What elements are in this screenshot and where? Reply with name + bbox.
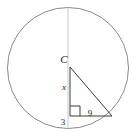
- label-below-corner-3: 3: [61, 117, 66, 127]
- label-center-c: C: [60, 53, 68, 65]
- right-angle-marker-icon: [70, 106, 80, 116]
- label-vertical-leg-x: x: [61, 82, 66, 92]
- label-horizontal-leg-9: 9: [88, 108, 93, 118]
- diagram-canvas: C x 9 3: [0, 0, 140, 137]
- geometry-figure: C x 9 3: [0, 0, 140, 137]
